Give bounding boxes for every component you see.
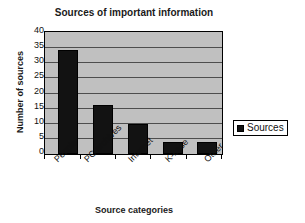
y-tick-label-20: 20 [28, 87, 44, 96]
y-tick-label-25: 25 [28, 71, 44, 80]
bar-people [58, 50, 78, 154]
legend-swatch-sources [237, 125, 244, 132]
chart-title: Sources of important information [36, 7, 232, 18]
chart-legend: Sources [233, 120, 288, 136]
y-tick-label-15: 15 [28, 102, 44, 111]
y-tick-label-30: 30 [28, 56, 44, 65]
chart-figure: Sources of important information Number … [0, 0, 305, 223]
y-tick-label-40: 40 [28, 26, 44, 35]
x-axis-category-labels: People PC archives Internet K-base Other [44, 157, 244, 203]
y-tick-label-0: 0 [28, 147, 44, 156]
bars-layer [45, 32, 222, 154]
y-tick-label-35: 35 [28, 41, 44, 50]
y-tick-label-10: 10 [28, 117, 44, 126]
x-axis-title: Source categories [44, 205, 224, 215]
y-tick-label-5: 5 [28, 132, 44, 141]
y-axis-tick-labels: 40 35 30 25 20 15 10 5 0 [22, 26, 44, 160]
legend-label-sources: Sources [247, 123, 284, 133]
